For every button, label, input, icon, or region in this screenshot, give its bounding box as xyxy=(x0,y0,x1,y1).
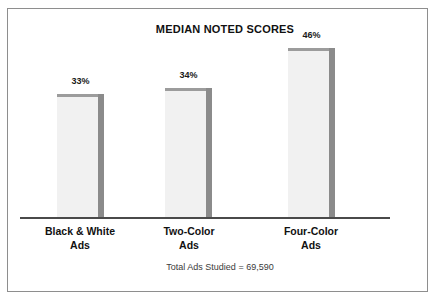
bar-label-line1: Black & White xyxy=(45,225,115,237)
bar-label-line2: Ads xyxy=(119,238,259,252)
median-noted-scores-chart: MEDIAN NOTED SCORES 33% Black & White Ad… xyxy=(0,0,440,302)
bar-value-black-and-white: 33% xyxy=(57,76,104,86)
bar-side-four-color xyxy=(329,48,335,218)
chart-title: MEDIAN NOTED SCORES xyxy=(145,23,305,35)
bar-label-line1: Four-Color xyxy=(284,225,338,237)
bar-two-color xyxy=(165,88,206,218)
bar-value-two-color: 34% xyxy=(165,70,212,80)
bar-group-two-color xyxy=(165,88,212,218)
bar-group-four-color xyxy=(288,48,335,218)
bar-label-line2: Ads xyxy=(241,238,381,252)
bar-label-line1: Two-Color xyxy=(163,225,214,237)
bar-side-black-and-white xyxy=(98,94,104,218)
bar-side-two-color xyxy=(206,88,212,218)
chart-footnote: Total Ads Studied = 69,590 xyxy=(0,262,440,272)
bar-label-four-color: Four-Color Ads xyxy=(241,224,381,252)
bar-four-color xyxy=(288,48,329,218)
bar-black-and-white xyxy=(57,94,98,218)
bar-group-black-and-white xyxy=(57,94,104,218)
bar-label-two-color: Two-Color Ads xyxy=(119,224,259,252)
bar-value-four-color: 46% xyxy=(288,30,335,40)
x-axis-baseline xyxy=(20,217,390,219)
plot-area: MEDIAN NOTED SCORES 33% Black & White Ad… xyxy=(0,0,440,302)
